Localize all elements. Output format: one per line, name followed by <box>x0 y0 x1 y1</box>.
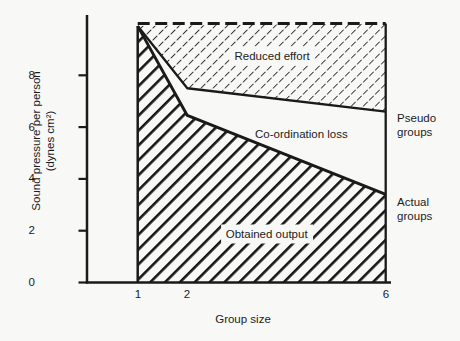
region-label-coordination-loss: Co-ordination loss <box>255 127 348 140</box>
social-loafing-chart-figure: Sound pressure per person (dynes cm²) 0 … <box>0 0 460 341</box>
y-tick-label-8: 8 <box>13 69 35 82</box>
region-label-obtained-output: Obtained output <box>221 225 313 244</box>
series-label-actual-groups: Actual groups <box>395 196 449 223</box>
y-axis-title-line2: (dynes cm²) <box>43 71 57 210</box>
x-tick-label-6: 6 <box>374 288 398 301</box>
y-axis-title-line1: Sound pressure per person <box>30 71 44 210</box>
y-tick-label-6: 6 <box>13 121 35 134</box>
x-tick-label-1: 1 <box>126 288 150 301</box>
y-tick-label-4: 4 <box>13 172 35 185</box>
x-axis-title: Group size <box>215 313 271 325</box>
y-tick-label-2: 2 <box>13 224 35 237</box>
series-label-pseudo-groups: Pseudo groups <box>395 112 449 139</box>
x-tick-label-2: 2 <box>175 288 199 301</box>
y-axis-title: Sound pressure per person (dynes cm²) <box>30 71 57 210</box>
region-label-reduced-effort: Reduced effort <box>229 46 314 65</box>
y-tick-label-0: 0 <box>13 276 35 289</box>
